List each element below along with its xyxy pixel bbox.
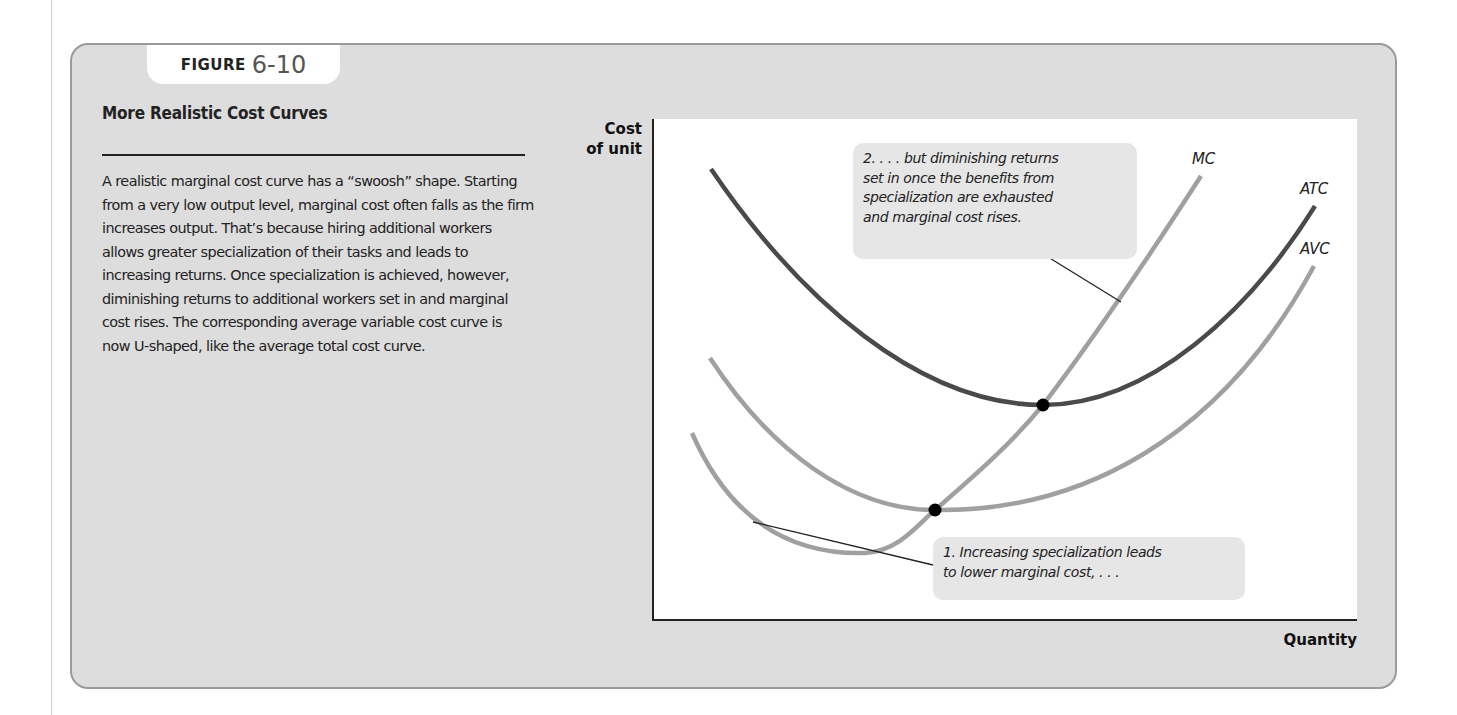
cost-curves-plot	[0, 0, 1457, 715]
atc-label: ATC	[1300, 180, 1328, 198]
avc-label: AVC	[1300, 240, 1329, 258]
annotation-1-line1: 1. Increasing specialization leads	[943, 543, 1235, 563]
x-axis-label: Quantity	[1200, 631, 1357, 649]
annotation-2: 2. . . . but diminishing returns set in …	[853, 143, 1137, 259]
mc-label: MC	[1192, 150, 1215, 168]
annotation-1: 1. Increasing specialization leads to lo…	[933, 537, 1245, 600]
atc-minimum-marker	[1037, 399, 1050, 412]
avc-minimum-marker	[929, 504, 942, 517]
annotation-2-line1: 2. . . . but diminishing returns	[863, 149, 1127, 169]
annotation-2-line4: and marginal cost rises.	[863, 208, 1127, 228]
annotation-1-line2: to lower marginal cost, . . .	[943, 563, 1235, 583]
annotation-2-line3: specialization are exhausted	[863, 188, 1127, 208]
annotation-2-line2: set in once the benefits from	[863, 169, 1127, 189]
